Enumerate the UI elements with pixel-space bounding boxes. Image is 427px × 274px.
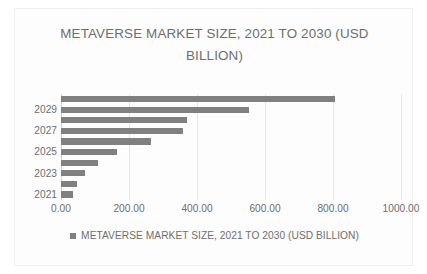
bar-2026 [61, 138, 151, 144]
y-axis-tick-2023: 2023 [15, 169, 57, 179]
plot-area [61, 94, 401, 200]
plot-wrapper: 20292027202520232021 0.00200.00400.00600… [15, 87, 414, 217]
x-axis-tick-800.00: 800.00 [298, 204, 368, 214]
chart-title-line-2: BILLION) [37, 45, 392, 67]
bar-row [61, 189, 401, 200]
bar-row [61, 105, 401, 116]
chart-title: METAVERSE MARKET SIZE, 2021 TO 2030 (USD… [37, 23, 392, 66]
y-axis-tick-2021: 2021 [15, 190, 57, 200]
chart-legend: METAVERSE MARKET SIZE, 2021 TO 2030 (USD… [15, 231, 414, 241]
bar-row [61, 158, 401, 169]
bar-row [61, 168, 401, 179]
bar-series [61, 94, 401, 200]
chart-card: METAVERSE MARKET SIZE, 2021 TO 2030 (USD… [14, 8, 413, 266]
bar-2030 [61, 96, 335, 102]
bar-row [61, 179, 401, 190]
bar-2023 [61, 170, 85, 176]
bar-row [61, 136, 401, 147]
bar-2028 [61, 117, 187, 123]
chart-title-line-1: METAVERSE MARKET SIZE, 2021 TO 2030 (USD [37, 23, 392, 45]
x-axis-tick-200.00: 200.00 [94, 204, 164, 214]
gridline [401, 94, 402, 200]
y-axis-tick-2027: 2027 [15, 126, 57, 136]
bar-row [61, 94, 401, 105]
bar-2022 [61, 181, 77, 187]
x-axis-tick-0.00: 0.00 [26, 204, 96, 214]
legend-swatch-icon [70, 233, 76, 239]
bar-row [61, 147, 401, 158]
y-axis-tick-2029: 2029 [15, 105, 57, 115]
bar-row [61, 115, 401, 126]
bar-2021 [61, 191, 73, 197]
x-axis-tick-400.00: 400.00 [162, 204, 232, 214]
bar-2027 [61, 128, 183, 134]
bar-2029 [61, 107, 249, 113]
bar-2025 [61, 149, 117, 155]
bar-2024 [61, 160, 98, 166]
legend-label: METAVERSE MARKET SIZE, 2021 TO 2030 (USD… [81, 231, 359, 241]
x-axis-tick-600.00: 600.00 [230, 204, 300, 214]
bar-row [61, 126, 401, 137]
y-axis-tick-2025: 2025 [15, 147, 57, 157]
x-axis-labels: 0.00200.00400.00600.00800.001000.00 [15, 204, 414, 220]
x-axis-tick-1000.00: 1000.00 [366, 204, 427, 214]
y-axis-labels: 20292027202520232021 [15, 94, 57, 200]
